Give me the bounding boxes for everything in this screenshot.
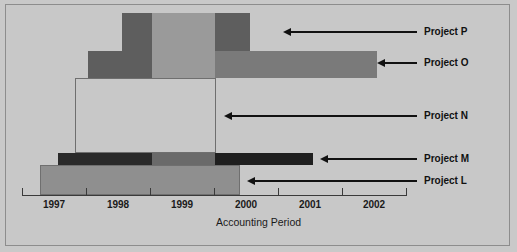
callout-leader-project-m: [328, 158, 417, 160]
axis-tick-label-1999: 1999: [150, 199, 214, 210]
plot-area: 1997 1998 1999 2000 2001 2002 Accounting…: [0, 0, 517, 252]
callout-leader-project-n: [232, 115, 417, 117]
callout-label-project-n: Project N: [424, 110, 468, 121]
axis-tick: [278, 188, 279, 196]
callout-leader-project-l: [255, 180, 417, 182]
callout-arrowhead-project-n: [224, 112, 232, 120]
axis-tick: [22, 188, 23, 196]
callout-label-project-o: Project O: [424, 57, 468, 68]
axis-tick: [342, 188, 343, 196]
bar-segment: [215, 153, 313, 165]
chart-root: 1997 1998 1999 2000 2001 2002 Accounting…: [0, 0, 517, 252]
callout-label-project-p: Project P: [424, 26, 467, 37]
callout-label-project-m: Project M: [424, 153, 469, 164]
axis-tick: [86, 188, 87, 196]
callout-arrowhead-project-l: [247, 177, 255, 185]
bar-project-p: [122, 13, 250, 51]
callout-arrowhead-project-o: [377, 59, 385, 67]
bar-segment: [41, 166, 239, 194]
callout-leader-project-o: [385, 62, 417, 64]
bar-segment: [152, 51, 215, 78]
bar-project-m: [58, 153, 313, 165]
callout-arrowhead-project-m: [320, 155, 328, 163]
bar-segment: [152, 153, 215, 165]
bar-project-n: [75, 78, 216, 153]
bar-segment: [88, 51, 152, 78]
callout-leader-project-p: [291, 31, 417, 33]
callout-arrowhead-project-p: [283, 28, 291, 36]
bar-segment: [58, 153, 152, 165]
axis-tick-label-1997: 1997: [22, 199, 86, 210]
bar-segment: [215, 13, 250, 51]
axis-tick-label-2002: 2002: [342, 199, 406, 210]
x-axis-title: Accounting Period: [0, 216, 517, 228]
bar-project-l: [40, 165, 240, 195]
callout-label-project-l: Project L: [424, 175, 467, 186]
axis-tick-label-2001: 2001: [278, 199, 342, 210]
bar-segment: [152, 13, 215, 51]
axis-tick: [406, 188, 407, 196]
bar-segment: [215, 51, 377, 78]
axis-tick-label-2000: 2000: [214, 199, 278, 210]
axis-tick-label-1998: 1998: [86, 199, 150, 210]
bar-project-o: [88, 51, 377, 78]
bar-segment: [122, 13, 152, 51]
axis-tick: [214, 188, 215, 196]
axis-tick: [150, 188, 151, 196]
